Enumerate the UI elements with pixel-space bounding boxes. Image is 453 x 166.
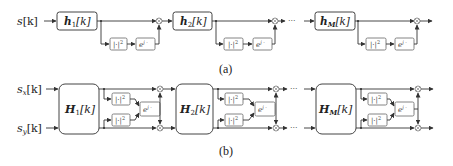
- power-block: |·|2: [110, 38, 127, 50]
- ellipsis: ···: [288, 16, 296, 25]
- multiplier-node: [272, 18, 278, 24]
- multiplier-node-y: [157, 125, 163, 131]
- filter-block-hM: hM[k]: [315, 12, 355, 30]
- power-block-x: |·|2: [368, 93, 387, 105]
- svg-text:hM[k]: hM[k]: [320, 15, 351, 29]
- phase-block: ej ·: [136, 38, 155, 50]
- caption-a: (a): [219, 62, 232, 76]
- power-block-x: |·|2: [225, 93, 243, 105]
- phase-block: ej ·: [253, 38, 272, 50]
- power-block-y: |·|2: [225, 114, 243, 126]
- panel-b: sx[k] sy[k] H1[k] |·|2 |·|2 ej ·: [17, 83, 433, 158]
- input-label-s: s[k]: [17, 15, 38, 28]
- ellipsis-y: ···: [290, 123, 298, 132]
- caption-b: (b): [219, 144, 233, 158]
- multiplier-node-y: [273, 125, 279, 131]
- multiplier-node-x: [273, 86, 279, 92]
- diagram-canvas: s[k] h1[k] |·|2 ej · h2[k]: [0, 0, 453, 166]
- phase-block: ej ·: [395, 102, 414, 116]
- input-label-sx: sx[k]: [17, 83, 42, 97]
- svg-text:H2[k]: H2[k]: [179, 103, 211, 117]
- power-block-x: |·|2: [112, 93, 130, 105]
- multiplier-node-y: [415, 125, 421, 131]
- svg-text:h2[k]: h2[k]: [180, 15, 208, 29]
- svg-text:h1[k]: h1[k]: [64, 15, 92, 29]
- input-label-sy: sy[k]: [17, 122, 42, 136]
- svg-text:H1[k]: H1[k]: [64, 103, 96, 117]
- ellipsis-x: ···: [290, 84, 298, 93]
- multiplier-node: [414, 18, 420, 24]
- multiplier-node-x: [415, 86, 421, 92]
- power-block: |·|2: [224, 38, 243, 50]
- power-block: |·|2: [366, 38, 386, 50]
- phase-block: ej ·: [140, 102, 160, 116]
- filter-block-h2: h2[k]: [173, 12, 212, 30]
- filter-block-h1: h1[k]: [57, 12, 97, 30]
- multiplier-node-x: [157, 86, 163, 92]
- power-block-y: |·|2: [112, 114, 130, 126]
- filter-block-H1: H1[k]: [59, 84, 99, 134]
- multiplier-node: [156, 18, 162, 24]
- panel-a: s[k] h1[k] |·|2 ej · h2[k]: [17, 12, 432, 76]
- phase-block: ej ·: [255, 102, 275, 116]
- filter-block-H2: H2[k]: [176, 84, 213, 134]
- power-block-y: |·|2: [368, 114, 387, 126]
- phase-block: ej ·: [395, 38, 414, 50]
- filter-block-HM: HM[k]: [316, 84, 356, 134]
